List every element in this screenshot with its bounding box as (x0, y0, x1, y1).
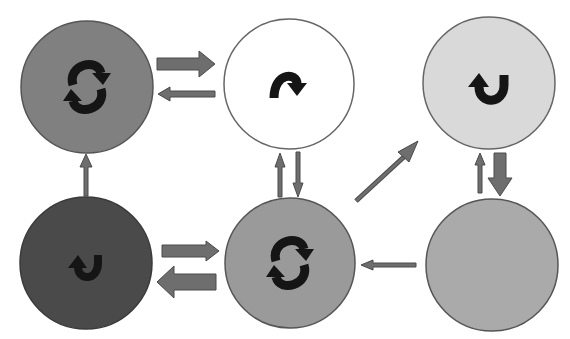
arrow-right-thick-icon (157, 51, 215, 77)
node-top-left-circle (21, 21, 153, 153)
node-top-right-circle (423, 17, 555, 149)
arrow-left-thin-icon (158, 87, 215, 101)
arrow-up-thin-icon (80, 154, 92, 196)
arrow-left-thick-icon (157, 266, 216, 298)
edge-top-left-to-top-middle (157, 51, 215, 77)
node-bottom-left-circle (20, 197, 152, 329)
node-bottom-middle-circle (225, 198, 355, 328)
arrow-right-medium-icon (162, 241, 219, 261)
edge-bottom-right-to-bottom-middle (361, 260, 416, 270)
edge-bottom-middle-to-top-right (356, 141, 418, 201)
arrow-down-thin-icon (293, 152, 303, 197)
node-bottom-middle (225, 198, 355, 328)
edge-bottom-left-to-top-left (80, 154, 92, 196)
edge-top-middle-to-bottom-middle (293, 152, 303, 197)
edge-top-right-to-bottom-right (488, 153, 512, 196)
node-bottom-right (426, 199, 558, 331)
arrow-down-thick-icon (488, 153, 512, 196)
edge-bottom-middle-to-top-middle (275, 153, 285, 197)
arrow-left-thin-icon (361, 260, 416, 270)
diagram-svg (0, 0, 570, 339)
node-bottom-right-circle (426, 199, 558, 331)
arrow-up-thin-icon (275, 153, 285, 197)
node-top-right (423, 17, 555, 149)
arrow-up-thin-icon (475, 153, 485, 193)
edge-bottom-right-to-top-right (475, 153, 485, 193)
node-top-left (21, 21, 153, 153)
node-bottom-left (20, 197, 152, 329)
state-transition-diagram (0, 0, 570, 339)
edge-bottom-left-to-bottom-middle (162, 241, 219, 261)
node-top-middle (224, 19, 354, 149)
edge-top-middle-to-top-left (158, 87, 215, 101)
edge-bottom-middle-to-bottom-left (157, 266, 216, 298)
